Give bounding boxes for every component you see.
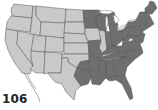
state-mt [36,6,66,23]
state-wa [11,4,33,18]
state-new-england-south [145,12,154,28]
state-oh [111,30,123,46]
state-ar [89,57,100,71]
state-ks [64,43,89,54]
lake-michigan [106,16,109,29]
state-co [45,36,64,52]
state-az [30,51,45,73]
state-sd [64,22,85,34]
state-fl [108,75,133,100]
state-nm [44,52,62,74]
state-wy [40,22,65,38]
state-ne [64,33,88,43]
figure-number: 106 [2,92,28,106]
state-nd [65,9,84,22]
state-ia [85,28,101,41]
great-salt-lake [36,37,38,40]
state-me [148,1,157,14]
